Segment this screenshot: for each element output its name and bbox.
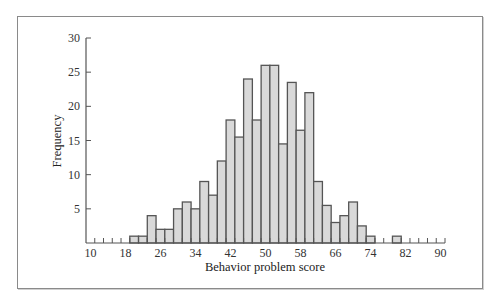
histogram-bars	[130, 65, 401, 243]
histogram-bar	[235, 137, 244, 243]
x-tick-label: 34	[189, 246, 201, 260]
histogram-bar	[191, 209, 200, 243]
histogram-bar	[165, 229, 174, 243]
histogram-bar	[349, 202, 358, 243]
histogram-bar	[139, 236, 148, 243]
histogram-bar	[217, 161, 226, 243]
x-tick-label: 82	[400, 246, 412, 260]
histogram-chart: 1018263442505866748290 51015202530 Behav…	[0, 0, 498, 304]
histogram-bar	[322, 205, 331, 243]
histogram-bar	[392, 236, 401, 243]
histogram-bar	[261, 65, 270, 243]
y-tick-label: 5	[74, 202, 80, 216]
x-tick-label: 42	[224, 246, 236, 260]
histogram-bar	[270, 65, 279, 243]
histogram-bar	[305, 93, 314, 243]
y-tick-label: 25	[68, 65, 80, 79]
histogram-bar	[331, 223, 340, 244]
y-tick-label: 30	[68, 31, 80, 45]
y-tick-label: 20	[68, 99, 80, 113]
x-tick-label: 18	[119, 246, 131, 260]
y-axis-title: Frequency	[50, 114, 64, 168]
histogram-bar	[252, 120, 261, 243]
histogram-bar	[340, 216, 349, 243]
x-axis-title: Behavior problem score	[205, 260, 326, 274]
histogram-bar	[287, 82, 296, 243]
histogram-bar	[156, 229, 165, 243]
x-tick-label: 66	[330, 246, 342, 260]
x-tick-label: 90	[435, 246, 447, 260]
histogram-bar	[357, 226, 366, 243]
histogram-bar	[182, 202, 191, 243]
histogram-bar	[296, 130, 305, 243]
histogram-bar	[314, 182, 323, 244]
x-tick-label: 10	[84, 246, 96, 260]
histogram-bar	[279, 144, 288, 243]
x-tick-label: 74	[365, 246, 377, 260]
histogram-bar	[174, 209, 183, 243]
x-tick-label: 26	[154, 246, 166, 260]
histogram-bar	[209, 195, 218, 243]
histogram-bar	[244, 79, 253, 243]
y-axis-ticks: 51015202530	[68, 31, 91, 216]
histogram-bar	[147, 216, 156, 243]
histogram-bar	[366, 236, 375, 243]
x-tick-label: 58	[295, 246, 307, 260]
x-tick-label: 50	[260, 246, 272, 260]
y-tick-label: 10	[68, 168, 80, 182]
histogram-bar	[226, 120, 235, 243]
histogram-bar	[130, 236, 139, 243]
histogram-bar	[200, 182, 209, 244]
y-tick-label: 15	[68, 134, 80, 148]
